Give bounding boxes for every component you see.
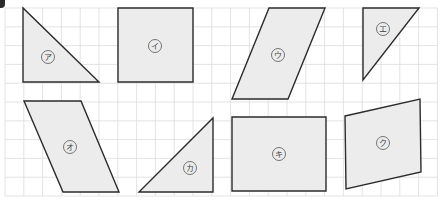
shape-label: ア: [44, 53, 52, 62]
shape-o: オ: [24, 101, 119, 192]
shape-e: エ: [363, 8, 419, 80]
shape-label: ク: [379, 139, 387, 148]
shape-label: ウ: [274, 51, 282, 60]
shape-ki: キ: [232, 117, 326, 191]
right-triangle-outline: [139, 118, 213, 192]
right-triangle-outline: [363, 8, 419, 80]
shape-i: イ: [118, 8, 193, 82]
grid-diagram: アイウエオカキク: [0, 0, 443, 201]
shape-label: エ: [379, 25, 387, 34]
shape-label: カ: [186, 164, 194, 173]
grid-canvas: アイウエオカキク: [0, 0, 443, 201]
shape-u: ウ: [232, 8, 325, 99]
shape-label: キ: [275, 150, 283, 159]
shape-label: オ: [66, 143, 74, 152]
shapes-group: アイウエオカキク: [23, 8, 421, 192]
shape-label: イ: [151, 42, 159, 51]
shape-ka: カ: [139, 118, 213, 192]
shape-ku: ク: [345, 99, 421, 189]
